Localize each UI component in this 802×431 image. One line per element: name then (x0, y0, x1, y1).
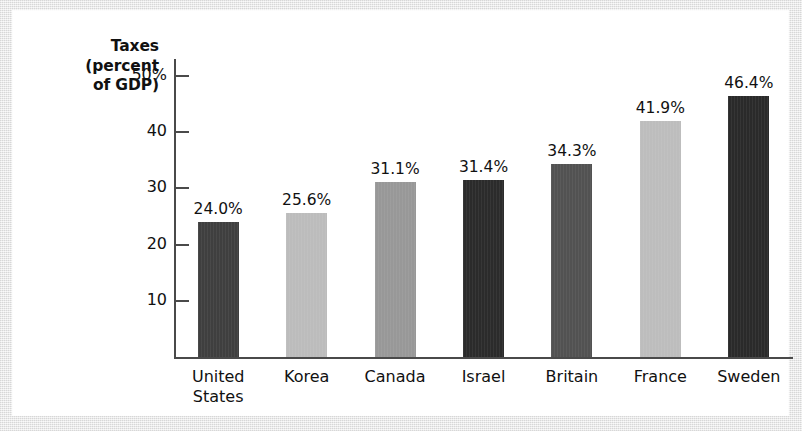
bar-value-label-sweden: 46.4% (724, 74, 773, 92)
x-label-canada: Canada (365, 367, 426, 387)
x-axis-line (174, 357, 793, 359)
bar-value-label-united-states: 24.0% (194, 200, 243, 218)
x-label-united-states: UnitedStates (192, 367, 245, 407)
bar-britain: 34.3% (551, 164, 592, 357)
bar-value-label-korea: 25.6% (282, 191, 331, 209)
bar-texture (286, 213, 327, 357)
y-tick-label-20: 20 (101, 234, 167, 253)
bar-value-label-israel: 31.4% (459, 158, 508, 176)
y-tick-label-10: 10 (101, 290, 167, 309)
bar-texture (640, 121, 681, 357)
x-label-france: France (634, 367, 687, 387)
bar-value-label-france: 41.9% (636, 99, 685, 117)
bar-value-label-britain: 34.3% (547, 142, 596, 160)
bar-korea: 25.6% (286, 213, 327, 357)
plot-area: 24.0%25.6%31.1%31.4%34.3%41.9%46.4% (174, 59, 793, 357)
bar-texture (463, 180, 504, 357)
bar-sweden: 46.4% (728, 96, 769, 357)
bar-france: 41.9% (640, 121, 681, 357)
bar-value-label-canada: 31.1% (370, 160, 419, 178)
y-tick-label-30: 30 (101, 177, 167, 196)
bar-canada: 31.1% (375, 182, 416, 357)
figure-container: Taxes (percent of GDP) 1020304050% 24.0%… (0, 0, 802, 431)
bar-united-states: 24.0% (198, 222, 239, 357)
bar-texture (375, 182, 416, 357)
x-label-britain: Britain (546, 367, 599, 387)
chart-panel: Taxes (percent of GDP) 1020304050% 24.0%… (13, 11, 788, 415)
bar-israel: 31.4% (463, 180, 504, 357)
x-label-israel: Israel (462, 367, 506, 387)
x-label-sweden: Sweden (717, 367, 780, 387)
y-tick-label-40: 40 (101, 121, 167, 140)
bar-texture (728, 96, 769, 357)
y-axis-title-line-1: Taxes (19, 37, 159, 57)
bar-texture (551, 164, 592, 357)
x-label-korea: Korea (284, 367, 329, 387)
y-tick-label-50: 50% (101, 65, 167, 84)
bar-texture (198, 222, 239, 357)
